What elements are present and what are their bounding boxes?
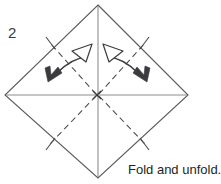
- step-number: 2: [8, 25, 16, 40]
- tick-lower-right: [140, 138, 149, 150]
- tick-upper-right: [140, 37, 149, 49]
- tick-lower-left: [46, 138, 55, 150]
- instruction-caption: Fold and unfold.: [128, 163, 221, 176]
- origami-diagram-figure: Origami diagram step 2 - square base dia…: [0, 0, 221, 184]
- paper-outline-square: [5, 5, 188, 178]
- origami-diagram-svg: Origami diagram step 2 - square base dia…: [0, 0, 221, 184]
- tick-upper-left: [46, 37, 55, 49]
